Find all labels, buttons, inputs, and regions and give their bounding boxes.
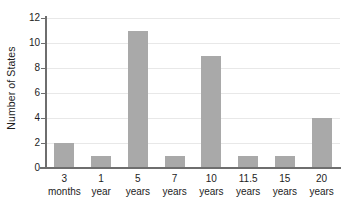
bar xyxy=(201,56,221,169)
x-axis-tick-label-value: 3 xyxy=(46,172,83,185)
y-axis-tick-label: 4 xyxy=(22,113,40,123)
x-axis-tick-label-unit: months xyxy=(46,185,83,198)
x-axis-tick-label: 3months xyxy=(46,172,83,198)
x-axis-tick-label-value: 11.5 xyxy=(230,172,267,185)
gridline xyxy=(46,143,340,144)
x-axis-tick-label-value: 15 xyxy=(267,172,304,185)
y-axis-tick-mark xyxy=(41,143,46,144)
x-axis-tick-label-unit: years xyxy=(303,185,340,198)
x-axis-tick-label-unit: years xyxy=(120,185,157,198)
x-axis-tick-label: 5years xyxy=(120,172,157,198)
y-axis-tick-label: 0 xyxy=(22,163,40,173)
x-axis-tick-label-unit: years xyxy=(193,185,230,198)
gridline xyxy=(46,93,340,94)
x-axis-tick-label-unit: years xyxy=(230,185,267,198)
gridline xyxy=(46,43,340,44)
y-axis-tick-mark xyxy=(41,118,46,119)
y-axis-tick-mark xyxy=(41,18,46,19)
x-axis-tick-label: 1year xyxy=(83,172,120,198)
x-axis-tick-label: 15years xyxy=(267,172,304,198)
gridline xyxy=(46,68,340,69)
y-axis-tick-mark xyxy=(41,168,46,169)
x-axis-tick-label: 20years xyxy=(303,172,340,198)
x-axis-tick-label-value: 10 xyxy=(193,172,230,185)
x-axis-tick-label: 7years xyxy=(156,172,193,198)
x-axis-tick-label-unit: years xyxy=(156,185,193,198)
x-axis-tick-label: 10years xyxy=(193,172,230,198)
y-axis-tick-label: 12 xyxy=(22,13,40,23)
y-axis-tick-label: 8 xyxy=(22,63,40,73)
bar xyxy=(128,31,148,169)
bar xyxy=(54,143,74,168)
bar xyxy=(312,118,332,168)
bar-chart-figure: Number of States 024681012 3months1year5… xyxy=(0,0,344,209)
x-axis-tick-label-unit: year xyxy=(83,185,120,198)
x-axis-tick-label-value: 1 xyxy=(83,172,120,185)
y-axis-title-text: Number of States xyxy=(5,46,17,129)
x-axis-tick-label-value: 7 xyxy=(156,172,193,185)
gridline xyxy=(46,18,340,19)
x-axis-line xyxy=(40,167,341,169)
y-axis-tick-label: 10 xyxy=(22,38,40,48)
x-axis-tick-label: 11.5years xyxy=(230,172,267,198)
plot-area xyxy=(46,18,340,168)
y-axis-tick-labels: 024681012 xyxy=(18,0,40,209)
y-axis-tick-label: 2 xyxy=(22,138,40,148)
y-axis-tick-mark xyxy=(41,93,46,94)
y-axis-tick-mark xyxy=(41,68,46,69)
gridline xyxy=(46,118,340,119)
y-axis-tick-mark xyxy=(41,43,46,44)
x-axis-tick-label-value: 5 xyxy=(120,172,157,185)
y-axis-tick-label: 6 xyxy=(22,88,40,98)
x-axis-tick-label-value: 20 xyxy=(303,172,340,185)
x-axis-tick-label-unit: years xyxy=(267,185,304,198)
